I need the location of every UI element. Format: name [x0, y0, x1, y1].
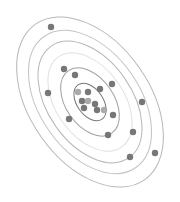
data-point: [97, 86, 103, 92]
data-point: [127, 154, 133, 160]
data-point: [101, 107, 107, 113]
data-point: [72, 72, 78, 78]
data-point: [85, 89, 91, 95]
data-point: [85, 98, 91, 104]
data-point: [75, 89, 81, 95]
data-point: [105, 132, 111, 138]
data-point: [94, 107, 100, 113]
data-point: [110, 112, 116, 118]
data-point: [130, 129, 136, 135]
scatter-plot: [0, 0, 180, 202]
data-point: [61, 66, 67, 72]
data-point: [79, 98, 85, 104]
data-point: [45, 90, 51, 96]
data-point: [81, 105, 87, 111]
data-point: [109, 81, 115, 87]
data-point: [66, 116, 72, 122]
data-point: [48, 24, 54, 30]
data-point: [139, 99, 145, 105]
data-point: [152, 150, 158, 156]
data-point: [92, 101, 98, 107]
